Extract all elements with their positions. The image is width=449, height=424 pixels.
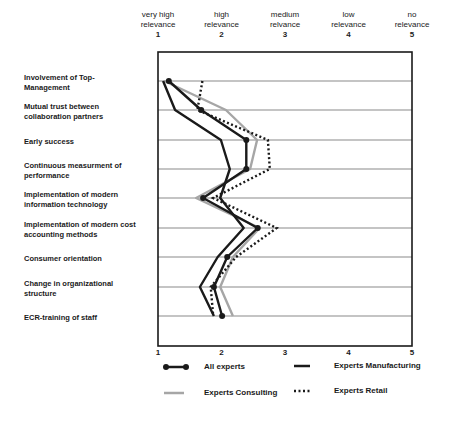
data-point [255,225,261,231]
data-point [224,254,230,260]
legend-label: All experts [204,362,245,371]
legend-experts-manufacturing: Experts Manufacturing [292,361,421,370]
legend-all-experts: All experts [162,362,245,371]
x-tick-label: 1 [152,348,164,357]
legend-experts-retail: Experts Retail [292,386,387,395]
data-point [200,195,206,201]
data-point [166,78,172,84]
x-tick-label: 5 [406,348,418,357]
legend-swatch-dotted-line-icon [292,387,320,395]
data-point [243,166,249,172]
data-point [211,284,217,290]
data-point [219,313,225,319]
x-tick-label: 3 [279,348,291,357]
legend-swatch-gray-line-icon [162,389,190,397]
x-tick-label: 4 [343,348,355,357]
x-tick-label: 2 [216,348,228,357]
data-point [198,107,204,113]
legend-label: Experts Consulting [204,388,277,397]
data-point [243,137,249,143]
legend-label: Experts Retail [334,386,387,395]
legend-swatch-solid-line-icon [292,362,320,370]
legend-label: Experts Manufacturing [334,361,421,370]
legend-swatch-dot-line-icon [162,363,190,371]
legend-experts-consulting: Experts Consulting [162,388,277,397]
